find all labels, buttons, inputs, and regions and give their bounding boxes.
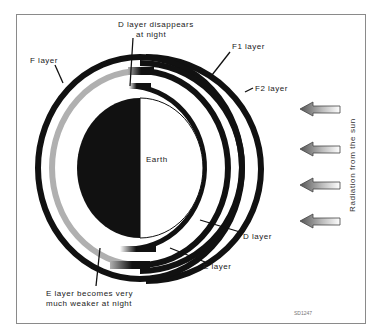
label-d-disappears-line1: D layer disappears [118, 20, 194, 30]
label-d-layer: D layer [243, 232, 272, 242]
arrow-left-icon [300, 214, 340, 228]
earth [77, 98, 203, 238]
leader-f [55, 65, 63, 83]
label-radiation: Radiation from the sun [348, 118, 357, 212]
figure-code: SD1247 [294, 310, 312, 316]
label-e-weaker-line1: E layer becomes very [46, 289, 133, 299]
label-e-layer: E layer [203, 262, 231, 272]
label-f1-layer: F1 layer [232, 42, 265, 52]
arrow-left-icon [300, 102, 340, 116]
label-f2-layer: F2 layer [255, 84, 288, 94]
label-earth: Earth [146, 155, 168, 165]
label-e-weaker-line2: much weaker at night [46, 299, 132, 309]
leader-f1 [212, 52, 230, 75]
label-d-disappears-line2: at night [136, 30, 166, 40]
arrow-left-icon [300, 142, 340, 156]
label-f-layer: F layer [30, 56, 58, 66]
leader-d-disappears [130, 38, 133, 86]
radiation-arrows [300, 102, 340, 228]
ionosphere-diagram [0, 0, 376, 334]
leader-f2 [245, 88, 253, 92]
arrow-left-icon [300, 178, 340, 192]
